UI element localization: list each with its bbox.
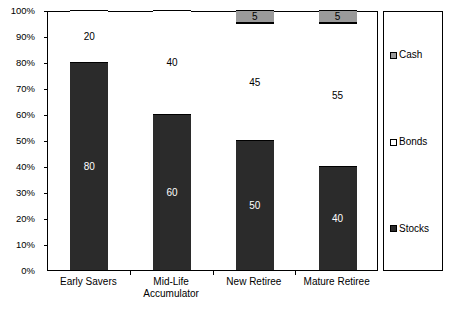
- bar-stack[interactable]: 8020: [70, 12, 108, 270]
- bar-stack[interactable]: 40555: [319, 12, 357, 270]
- x-category-label: Early Savers: [60, 276, 117, 288]
- bar-stack[interactable]: 6040: [153, 12, 191, 270]
- legend: CashBondsStocks: [383, 11, 443, 271]
- bar-value-label: 80: [84, 161, 95, 172]
- bar-stack[interactable]: 50455: [236, 12, 274, 270]
- y-tick-label: 0%: [21, 266, 35, 276]
- x-tick-mark: [130, 271, 131, 275]
- x-tick-mark: [213, 271, 214, 275]
- y-axis: 0%10%20%30%40%50%60%70%80%90%100%: [0, 11, 41, 271]
- bar-segment-cash[interactable]: 5: [236, 10, 274, 23]
- plot-area: 802060405045540555: [47, 11, 378, 271]
- bar-value-label: 40: [332, 213, 343, 224]
- x-category-label-line: Mature Retiree: [304, 276, 370, 288]
- bar-group[interactable]: 8020: [48, 12, 131, 270]
- legend-item-cash[interactable]: Cash: [390, 50, 422, 60]
- bar-segment-bonds[interactable]: 40: [153, 10, 191, 114]
- x-category-label-line: Mid-Life: [143, 276, 199, 288]
- x-category-label: New Retiree: [226, 276, 281, 288]
- x-category-label: Mid-LifeAccumulator: [143, 276, 199, 300]
- y-tick-label: 60%: [16, 110, 35, 120]
- y-tick-label: 70%: [16, 84, 35, 94]
- bar-value-label: 40: [167, 57, 178, 68]
- bar-value-label: 45: [249, 77, 260, 88]
- y-tick-label: 100%: [11, 6, 35, 16]
- bar-value-label: 5: [252, 11, 258, 22]
- x-category-label: Mature Retiree: [304, 276, 370, 288]
- bar-segment-stocks[interactable]: 40: [319, 166, 357, 270]
- x-category-label-line: New Retiree: [226, 276, 281, 288]
- legend-label: Bonds: [399, 137, 427, 147]
- y-tick-label: 10%: [16, 240, 35, 250]
- bar-value-label: 55: [332, 90, 343, 101]
- legend-label: Cash: [399, 50, 422, 60]
- bar-group[interactable]: 6040: [131, 12, 214, 270]
- bars-container: 802060405045540555: [48, 12, 377, 270]
- bar-group[interactable]: 40555: [296, 12, 379, 270]
- x-category-label-line: Accumulator: [143, 288, 199, 300]
- bar-group[interactable]: 50455: [214, 12, 297, 270]
- legend-item-bonds[interactable]: Bonds: [390, 137, 427, 147]
- bar-value-label: 5: [335, 11, 341, 22]
- bar-segment-bonds[interactable]: 20: [70, 10, 108, 62]
- y-tick-label: 90%: [16, 32, 35, 42]
- cash-swatch: [390, 52, 397, 59]
- y-tick-label: 80%: [16, 58, 35, 68]
- bar-segment-stocks[interactable]: 80: [70, 62, 108, 270]
- stocks-swatch: [390, 225, 397, 232]
- bar-segment-stocks[interactable]: 60: [153, 114, 191, 270]
- bar-segment-cash[interactable]: 5: [319, 10, 357, 23]
- stacked-bar-chart: 0%10%20%30%40%50%60%70%80%90%100% 802060…: [0, 0, 450, 312]
- bar-value-label: 50: [249, 200, 260, 211]
- bar-value-label: 60: [167, 187, 178, 198]
- y-tick-label: 20%: [16, 214, 35, 224]
- bar-value-label: 20: [84, 31, 95, 42]
- y-tick-label: 40%: [16, 162, 35, 172]
- x-tick-mark: [295, 271, 296, 275]
- bar-segment-stocks[interactable]: 50: [236, 140, 274, 270]
- x-axis: Early SaversMid-LifeAccumulatorNew Retir…: [47, 276, 378, 312]
- bonds-swatch: [390, 139, 397, 146]
- y-tick-label: 50%: [16, 136, 35, 146]
- x-category-label-line: Early Savers: [60, 276, 117, 288]
- legend-item-stocks[interactable]: Stocks: [390, 224, 429, 234]
- y-tick-label: 30%: [16, 188, 35, 198]
- legend-label: Stocks: [399, 224, 429, 234]
- bar-segment-bonds[interactable]: 55: [319, 23, 357, 166]
- bar-segment-bonds[interactable]: 45: [236, 23, 274, 140]
